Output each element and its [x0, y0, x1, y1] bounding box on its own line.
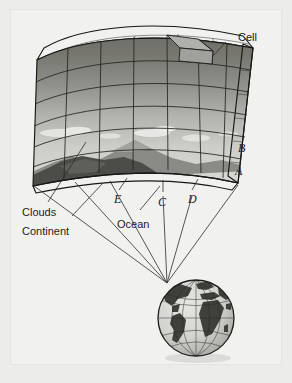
diagram-svg: Cell B A E C D Clouds Continent Ocean [0, 0, 292, 383]
atmosphere-slab [25, 25, 265, 200]
label-point-c: C [158, 195, 167, 209]
earth-globe [158, 280, 234, 363]
figure-container: Cell B A E C D Clouds Continent Ocean [0, 0, 292, 383]
label-ocean: Ocean [117, 218, 149, 230]
label-clouds: Clouds [22, 206, 57, 218]
label-point-d: D [187, 192, 197, 206]
label-cell: Cell [238, 31, 257, 43]
label-layer-a: A [234, 164, 243, 178]
label-continent: Continent [22, 225, 69, 237]
slab-front-face [25, 25, 265, 200]
label-layer-b: B [238, 141, 246, 155]
label-point-e: E [113, 192, 122, 206]
